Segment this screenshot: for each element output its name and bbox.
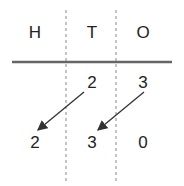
header-ones: O [128,23,158,43]
row1-ones-digit: 3 [128,73,158,93]
header-hundreds: H [20,23,50,43]
row1-tens-digit: 2 [77,73,107,93]
header-tens: T [77,23,107,43]
row2-tens-digit: 3 [77,133,107,153]
shift-arrow-ones-to-tens [98,92,144,130]
shift-arrow-tens-to-hundreds [38,92,84,130]
row2-ones-digit: 0 [128,133,158,153]
row2-hundreds-digit: 2 [20,133,50,153]
